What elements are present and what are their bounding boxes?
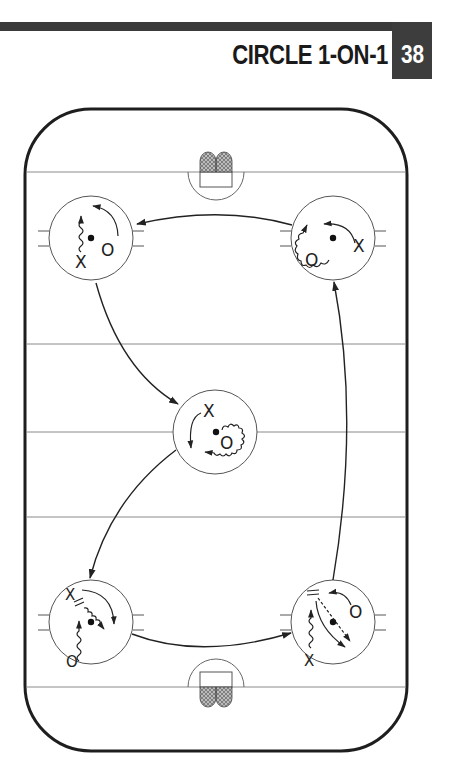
player-x: X <box>203 401 215 421</box>
net-icon <box>200 687 232 707</box>
player-x: X <box>304 652 314 670</box>
crease-box-bottom <box>200 672 232 687</box>
arrow-top-right-to-top-left <box>137 215 292 225</box>
arrow-center-to-bottom-left <box>90 450 176 578</box>
player-o: O <box>101 240 114 260</box>
player-o: O <box>220 433 233 453</box>
crease-box-top <box>200 172 232 187</box>
faceoff-circles <box>38 196 386 664</box>
arrow-bottom-left-to-bottom-right <box>132 633 291 647</box>
player-x: X <box>75 252 87 272</box>
net-icon <box>200 152 232 172</box>
goal-bottom <box>188 659 244 707</box>
player-o: O <box>66 653 78 671</box>
player-o: O <box>305 250 318 270</box>
faceoff-circle-bottom-left <box>38 580 144 664</box>
goal-top <box>188 152 244 200</box>
faceoff-circle-top-left <box>38 196 144 280</box>
faceoff-circle-center <box>173 390 257 474</box>
rink-diagram: X O X O X O X O X O <box>0 0 455 782</box>
faceoff-circle-top-right <box>280 196 386 280</box>
player-x: X <box>353 236 365 256</box>
player-o: O <box>349 602 362 622</box>
player-x: X <box>65 586 75 604</box>
arrow-bottom-right-to-top-right <box>333 282 347 580</box>
